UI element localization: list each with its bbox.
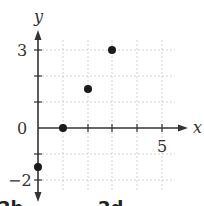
y-tick-label-0: 0 [17,119,27,138]
x-tick-label-5: 5 [157,137,167,156]
data-point [34,163,42,171]
data-points [34,46,116,171]
axes [35,30,189,202]
ticks [34,50,162,180]
caption-right-cut: 2d [98,197,123,206]
grid [38,40,175,192]
y-axis-label: y [33,7,44,26]
scatter-chart: y x 3 0 −2 5 2b 2d [0,0,204,206]
caption-left-cut: 2b [0,197,24,206]
data-point [59,124,67,132]
y-tick-label-3: 3 [17,41,27,60]
data-point [108,46,116,54]
y-tick-label-neg2: −2 [8,171,32,190]
x-axis-label: x [193,118,202,137]
data-point [84,85,92,93]
